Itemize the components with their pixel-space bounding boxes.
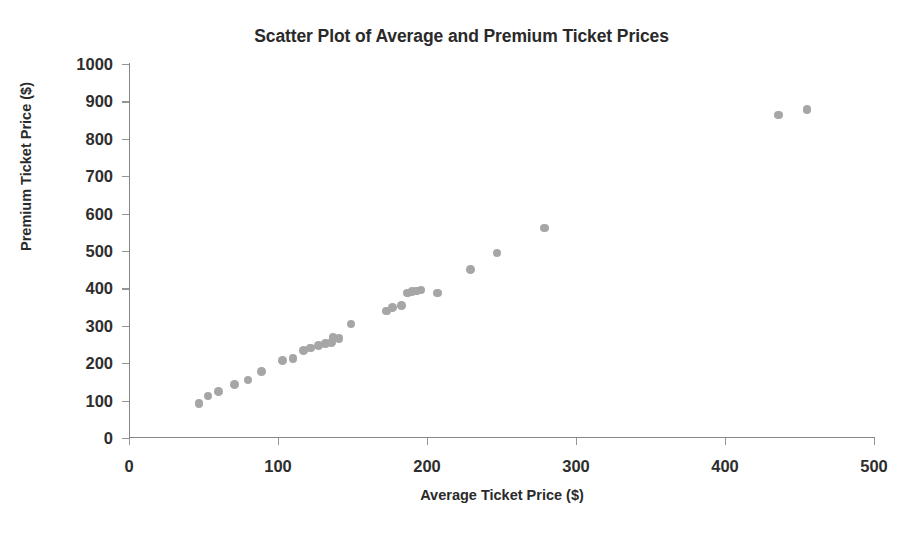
y-axis-title: Premium Ticket Price ($)	[18, 82, 34, 251]
x-tick-label: 200	[413, 457, 441, 476]
y-tick-mark: 600	[122, 214, 129, 215]
scatter-chart: Scatter Plot of Average and Premium Tick…	[0, 0, 923, 534]
data-point	[417, 286, 426, 295]
data-point	[803, 105, 812, 114]
y-tick-label: 400	[85, 279, 113, 298]
y-tick-label: 0	[104, 429, 113, 448]
y-tick-mark: 500	[122, 251, 129, 252]
data-point	[466, 265, 475, 274]
y-tick-mark: 1000	[122, 64, 129, 65]
data-point	[540, 224, 549, 233]
y-tick-label: 500	[85, 242, 113, 261]
data-point	[335, 334, 344, 343]
data-point	[230, 380, 239, 389]
x-tick-label: 300	[562, 457, 590, 476]
plot-area: 01002003004005006007008009001000 0100200…	[129, 64, 874, 438]
y-tick-label: 700	[85, 167, 113, 186]
y-tick-label: 900	[85, 92, 113, 111]
x-tick-mark: 0	[129, 438, 130, 445]
x-tick-label: 100	[264, 457, 292, 476]
x-tick-label: 500	[860, 457, 888, 476]
data-point	[347, 320, 356, 329]
x-tick-mark: 100	[278, 438, 279, 445]
data-point	[774, 111, 783, 120]
data-point	[244, 376, 253, 385]
y-tick-label: 100	[85, 391, 113, 410]
x-tick-label: 0	[124, 457, 133, 476]
data-point	[278, 356, 287, 365]
y-tick-label: 300	[85, 316, 113, 335]
y-tick-mark: 0	[122, 438, 129, 439]
y-tick-mark: 100	[122, 401, 129, 402]
x-axis-title: Average Ticket Price ($)	[129, 487, 875, 503]
data-point	[214, 387, 223, 396]
x-tick-mark: 400	[725, 438, 726, 445]
chart-title: Scatter Plot of Average and Premium Tick…	[0, 26, 923, 47]
y-tick-mark: 300	[122, 326, 129, 327]
x-tick-mark: 300	[576, 438, 577, 445]
y-tick-mark: 200	[122, 363, 129, 364]
data-point	[493, 249, 502, 258]
y-tick-mark: 700	[122, 176, 129, 177]
data-point	[388, 303, 397, 312]
y-tick-label: 1000	[76, 55, 113, 74]
data-point	[433, 289, 442, 298]
x-tick-label: 400	[711, 457, 739, 476]
data-point	[257, 367, 266, 376]
data-point	[195, 399, 204, 408]
y-tick-label: 600	[85, 204, 113, 223]
y-tick-label: 200	[85, 354, 113, 373]
x-tick-mark: 200	[427, 438, 428, 445]
data-point	[397, 301, 406, 310]
y-tick-mark: 800	[122, 139, 129, 140]
data-point	[289, 354, 298, 363]
y-tick-mark: 900	[122, 101, 129, 102]
y-tick-mark: 400	[122, 288, 129, 289]
data-point	[204, 392, 213, 401]
y-tick-label: 800	[85, 129, 113, 148]
x-tick-mark: 500	[874, 438, 875, 445]
